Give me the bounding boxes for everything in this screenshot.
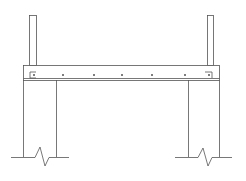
structural-diagram	[0, 0, 246, 181]
right-break-line	[175, 148, 232, 166]
rebar-dot	[121, 74, 123, 76]
rebar-dot	[62, 74, 64, 76]
rebar-dot	[33, 74, 35, 76]
rebar-dot	[184, 74, 186, 76]
rebar-dot	[151, 74, 153, 76]
rebar-dot	[208, 74, 210, 76]
rebar-dot	[93, 74, 95, 76]
left-post	[30, 16, 37, 66]
left-break-line	[11, 147, 69, 166]
right-post	[208, 16, 214, 66]
